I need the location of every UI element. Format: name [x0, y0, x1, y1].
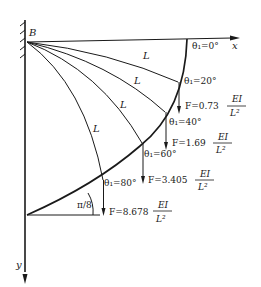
y-axis-label: y: [15, 259, 22, 270]
svg-text:F=8.678: F=8.678: [109, 207, 149, 217]
segment-label-2: L: [133, 75, 141, 86]
angle-label-40: θ₁=40°: [169, 117, 202, 127]
svg-text:F=3.405: F=3.405: [148, 175, 188, 185]
angle-label-60: θ₁=60°: [144, 149, 177, 159]
force-label-20: F=0.73 EI L²: [185, 94, 246, 118]
force-label-60: F=3.405 EI L²: [148, 169, 214, 192]
svg-text:F=0.73: F=0.73: [185, 101, 219, 111]
angle-label-80: θ₁=80°: [104, 178, 137, 188]
segment-label-1: L: [142, 50, 150, 61]
svg-text:EI: EI: [199, 169, 211, 179]
svg-text:L²: L²: [229, 108, 240, 118]
fixed-support-wall: [20, 20, 25, 272]
tip-locus-curve: [27, 39, 187, 215]
svg-text:EI: EI: [217, 132, 229, 142]
angle-label-20: θ₁=20°: [184, 76, 217, 86]
svg-text:L²: L²: [155, 214, 166, 224]
svg-text:L²: L²: [215, 145, 226, 155]
end-angle-label: π/8: [77, 200, 92, 210]
segment-label-4: L: [92, 123, 100, 134]
angle-label-0: θ₁=0°: [192, 41, 219, 51]
svg-text:EI: EI: [157, 200, 169, 210]
force-label-80: F=8.678 EI L²: [109, 200, 172, 224]
segment-label-3: L: [119, 99, 127, 110]
support-label: B: [28, 27, 36, 38]
beam-deflected-shapes: [27, 42, 178, 180]
x-axis-label: x: [232, 40, 238, 51]
beam-curve-80: [27, 42, 103, 180]
svg-text:EI: EI: [231, 94, 243, 104]
force-label-40: F=1.69 EI L²: [172, 132, 232, 155]
y-axis: [23, 274, 28, 284]
svg-text:F=1.69: F=1.69: [172, 138, 206, 148]
cantilever-large-deflection-diagram: B x y L L L L π/8 θ₁=0° θ₁=20° θ₁=40° θ₁…: [0, 0, 261, 287]
svg-text:L²: L²: [197, 182, 208, 192]
